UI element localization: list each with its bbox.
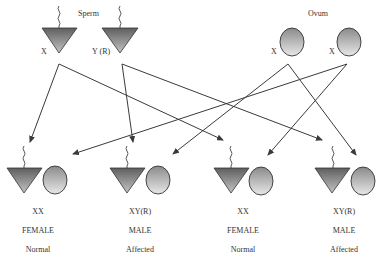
offspring-status: Normal (231, 245, 256, 254)
offspring-2: XY(R) MALE Affected (110, 146, 170, 254)
ovum-icon (280, 28, 304, 56)
sperm-heading: Sperm (78, 9, 100, 18)
offspring-4: XY(R) MALE Affected (315, 146, 375, 254)
connection-arrows (30, 64, 356, 155)
sperm-head-icon (42, 28, 77, 53)
offspring-sex: FEMALE (22, 226, 54, 235)
inheritance-diagram: Sperm Ovum X Y (R) X X (0, 0, 383, 265)
sperm-tail-icon (119, 6, 121, 28)
offspring-3: XX FEMALE Normal (214, 146, 273, 254)
ovum-2-label: X (329, 47, 335, 56)
offspring-status: Affected (330, 245, 358, 254)
offspring-status: Normal (26, 245, 51, 254)
arrow-sperm-y-to-offspring-2 (122, 64, 133, 142)
sperm-x-gamete: X (41, 6, 77, 56)
sperm-head-icon (110, 168, 145, 193)
sperm-x-label: X (41, 47, 47, 56)
offspring-status: Affected (126, 245, 154, 254)
offspring-1: XX FEMALE Normal (7, 146, 67, 254)
ovum-1-gamete: X (271, 28, 304, 56)
sperm-tail-icon (23, 146, 25, 168)
sperm-head-icon (7, 168, 42, 193)
arrow-sperm-x-to-offspring-3 (59, 64, 223, 140)
ovum-icon (337, 28, 361, 56)
sperm-y-label: Y (R) (92, 47, 110, 56)
sperm-tail-icon (58, 6, 60, 28)
offspring-sex: MALE (333, 226, 356, 235)
ovum-1-label: X (271, 47, 277, 56)
offspring-sex: MALE (129, 226, 152, 235)
arrow-ovum-2-to-offspring-1 (73, 64, 347, 154)
arrow-sperm-y-to-offspring-4 (122, 64, 322, 140)
arrow-ovum-1-to-offspring-4 (288, 64, 356, 155)
sperm-tail-icon (332, 146, 334, 168)
arrow-ovum-1-to-offspring-2 (173, 64, 288, 154)
ovum-icon (43, 166, 67, 194)
ovum-icon (351, 167, 375, 195)
sperm-tail-icon (126, 146, 128, 168)
offspring-genotype: XX (237, 207, 249, 216)
ovum-icon (146, 166, 170, 194)
sperm-tail-icon (230, 146, 232, 168)
offspring-genotype: XY(R) (129, 207, 152, 216)
sperm-y-gamete: Y (R) (92, 6, 138, 56)
sperm-head-icon (315, 168, 350, 193)
ovum-icon (249, 167, 273, 195)
offspring-genotype: XX (32, 207, 44, 216)
ovum-heading: Ovum (308, 9, 329, 18)
offspring-sex: FEMALE (227, 226, 259, 235)
arrow-sperm-x-to-offspring-1 (30, 64, 59, 142)
ovum-2-gamete: X (329, 28, 361, 56)
arrow-ovum-2-to-offspring-3 (268, 64, 347, 155)
offspring-genotype: XY(R) (333, 207, 356, 216)
sperm-head-icon (214, 168, 249, 193)
